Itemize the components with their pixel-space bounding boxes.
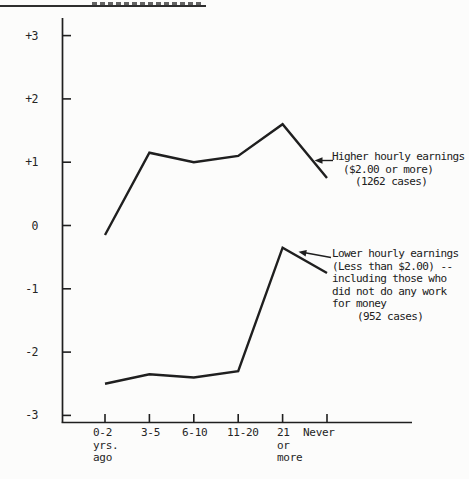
x-tick-label: 21 or more [277,427,302,465]
series-line-lower-earnings [105,248,327,384]
annotation-line: (952 cases) [332,311,458,324]
y-tick-label: 0 [4,219,38,233]
x-tick-label: 3-5 [141,427,160,440]
annotation-line: Lower hourly earnings [332,248,458,261]
line-chart: +3+2+10-1-2-3 0-2 yrs. ago3-56-1011-2021… [0,0,469,479]
chart-canvas [0,0,469,479]
y-tick-label: +3 [4,29,38,43]
y-tick-label: -2 [4,345,38,359]
x-tick-label: 6-10 [182,427,207,440]
y-tick-label: +2 [4,92,38,106]
annotation-arrowhead-lower [299,250,307,256]
annotation-lower-earnings: Lower hourly earnings(Less than $2.00) -… [332,248,458,324]
scanned-chart-page: +3+2+10-1-2-3 0-2 yrs. ago3-56-1011-2021… [0,0,469,479]
x-tick-label: 11-20 [227,427,259,440]
x-tick-label: Never [303,427,335,440]
annotation-line: (1262 cases) [332,176,465,189]
y-tick-label: -1 [4,282,38,296]
annotation-arrow-lower [305,253,331,258]
y-tick-label: -3 [4,408,38,422]
series-line-higher-earnings [105,124,327,235]
annotation-line: Higher hourly earnings [332,151,465,164]
y-tick-label: +1 [4,155,38,169]
x-tick-label: 0-2 yrs. ago [93,427,118,465]
annotation-higher-earnings: Higher hourly earnings($2.00 or more)(12… [332,151,465,189]
annotation-line: including those who [332,273,458,286]
